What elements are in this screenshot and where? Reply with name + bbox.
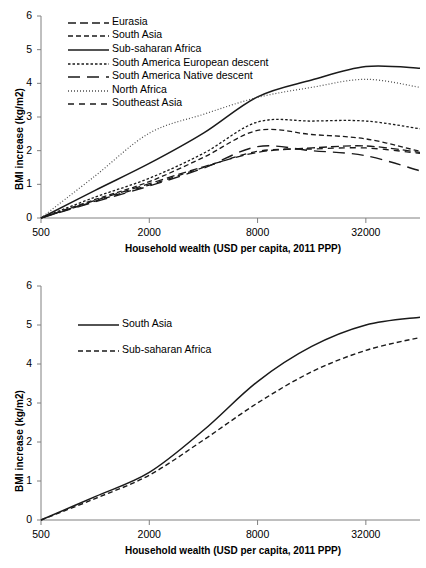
y-tick-label: 3 xyxy=(10,110,32,122)
legend-item-label: Sub-saharan Africa xyxy=(119,343,211,355)
legend-item: South Asia xyxy=(68,28,268,42)
x-tick-label: 500 xyxy=(11,226,71,238)
legend-item-label: South America Native descent xyxy=(109,69,253,81)
x-tick-label: 32000 xyxy=(336,528,396,540)
chart-panel-bottom: BMI increase (kg/m2) Household wealth (U… xyxy=(0,284,426,568)
legend-line-swatch xyxy=(68,96,109,108)
y-axis-label-top: BMI increase (kg/m2) xyxy=(14,88,25,190)
x-tick-label: 2000 xyxy=(119,226,179,238)
series-line xyxy=(41,146,420,218)
legend-item: Sub-saharan Africa xyxy=(78,336,211,362)
legend-line-swatch xyxy=(68,15,109,27)
legend-item: Sub-saharan Africa xyxy=(68,41,268,55)
y-tick-label: 1 xyxy=(10,474,32,486)
x-tick-label: 500 xyxy=(11,528,71,540)
plot-area-bottom xyxy=(0,284,426,568)
legend-item: South America Native descent xyxy=(68,68,268,82)
legend-item-label: South America European descent xyxy=(109,56,268,68)
y-tick-label: 1 xyxy=(10,177,32,189)
x-tick-label: 8000 xyxy=(228,226,288,238)
legend-line-swatch xyxy=(78,343,119,355)
legend-top: EurasiaSouth AsiaSub-saharan AfricaSouth… xyxy=(68,14,268,109)
legend-line-swatch xyxy=(68,56,109,68)
legend-item-label: Eurasia xyxy=(109,15,148,27)
legend-line-swatch xyxy=(68,69,109,81)
y-tick-label: 6 xyxy=(10,9,32,21)
y-tick-label: 3 xyxy=(10,396,32,408)
legend-item-label: South Asia xyxy=(109,28,162,40)
legend-item: Eurasia xyxy=(68,14,268,28)
series-line xyxy=(41,337,420,520)
legend-line-swatch xyxy=(68,28,109,40)
legend-item-label: South Asia xyxy=(119,317,172,329)
y-tick-label: 5 xyxy=(10,318,32,330)
legend-item-label: Sub-saharan Africa xyxy=(109,42,201,54)
legend-item: South Asia xyxy=(78,310,211,336)
y-tick-label: 4 xyxy=(10,357,32,369)
y-tick-label: 4 xyxy=(10,76,32,88)
legend-item: North Africa xyxy=(68,82,268,96)
x-axis-label-top: Household wealth (USD per capita, 2011 P… xyxy=(20,243,426,254)
y-tick-label: 2 xyxy=(10,144,32,156)
y-tick-label: 0 xyxy=(10,211,32,223)
chart-panel-top: BMI increase (kg/m2) Household wealth (U… xyxy=(0,0,426,284)
series-line xyxy=(41,119,420,218)
figure-two-panel: BMI increase (kg/m2) Household wealth (U… xyxy=(0,0,426,568)
y-tick-label: 5 xyxy=(10,43,32,55)
y-tick-label: 2 xyxy=(10,435,32,447)
legend-item-label: Southeast Asia xyxy=(109,96,182,108)
legend-item: Southeast Asia xyxy=(68,96,268,110)
y-tick-label: 0 xyxy=(10,513,32,525)
legend-line-swatch xyxy=(68,83,109,95)
legend-line-swatch xyxy=(68,42,109,54)
legend-item-label: North Africa xyxy=(109,83,167,95)
x-tick-label: 8000 xyxy=(228,528,288,540)
series-line xyxy=(41,148,420,218)
y-tick-label: 6 xyxy=(10,279,32,291)
x-tick-label: 32000 xyxy=(336,226,396,238)
x-tick-label: 2000 xyxy=(119,528,179,540)
legend-line-swatch xyxy=(78,317,119,329)
x-axis-label-bottom: Household wealth (USD per capita, 2011 P… xyxy=(20,545,426,556)
legend-item: South America European descent xyxy=(68,55,268,69)
legend-bottom: South AsiaSub-saharan Africa xyxy=(78,310,211,362)
